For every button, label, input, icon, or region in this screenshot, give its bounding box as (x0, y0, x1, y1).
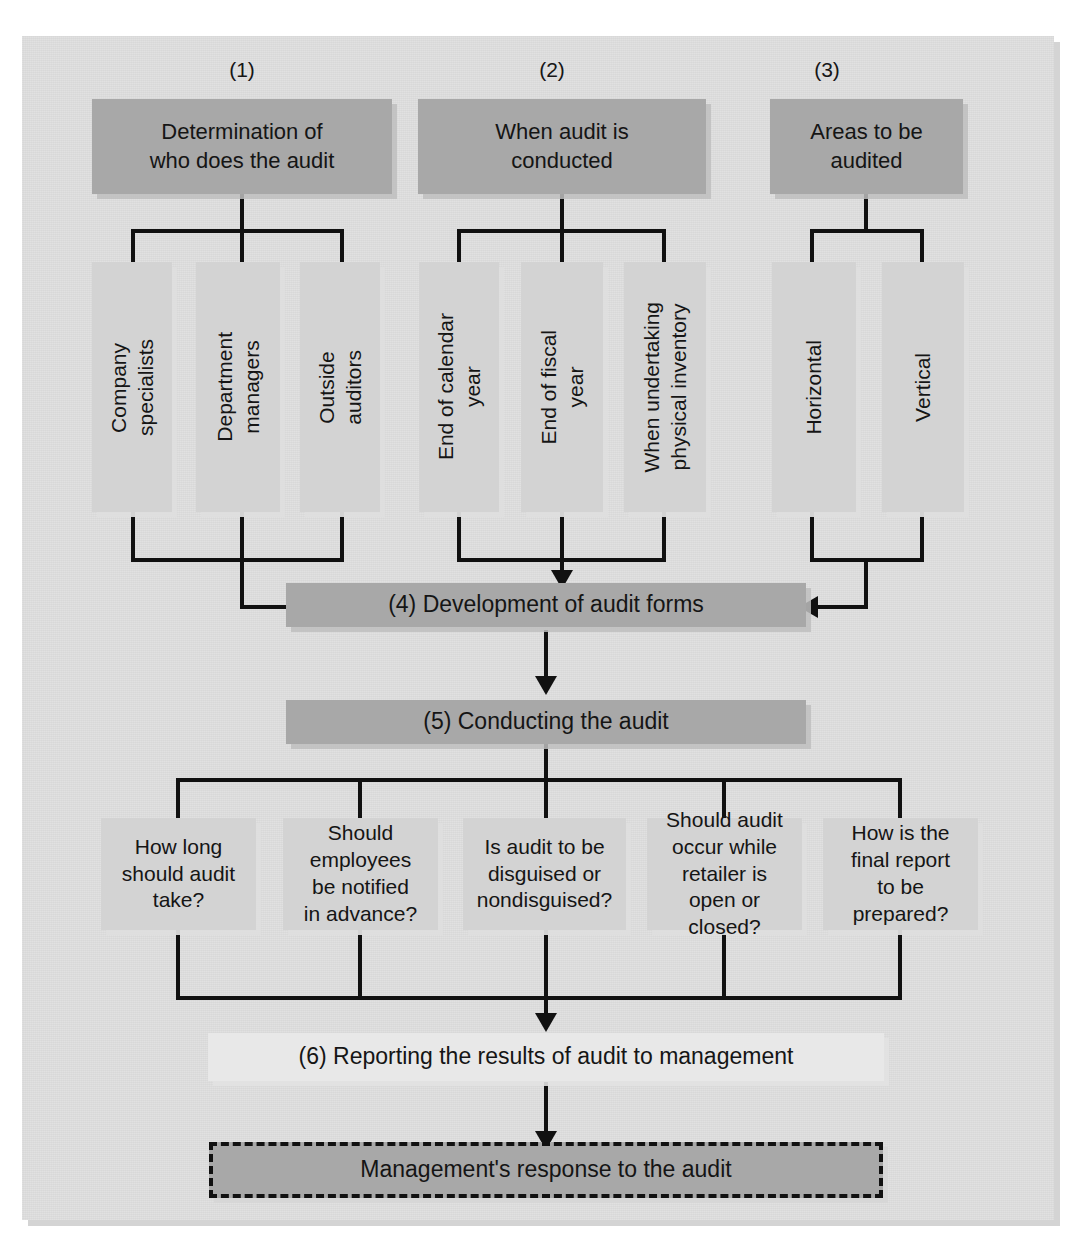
flowchart-figure: (1) (2) (3) Determination of who does th… (0, 0, 1076, 1256)
connector-col2-drop-2 (560, 229, 564, 265)
branch-box-end-of-calendar-year[interactable]: End of calendar year (419, 262, 499, 512)
merge-col1-rise-3 (340, 512, 344, 562)
connector-col2-drop-1 (457, 229, 461, 265)
question-box-final-report-prepared[interactable]: How is the final report to be prepared? (823, 818, 978, 930)
connector-step5-drop-3 (544, 778, 548, 820)
branch-box-vertical[interactable]: Vertical (882, 262, 964, 512)
arrow-into-step5 (535, 676, 557, 695)
merge-col3-rise-1 (810, 512, 814, 562)
step-7-label: Management's response to the audit (213, 1155, 879, 1184)
top-box-determination-who-does-audit[interactable]: Determination of who does the audit (92, 99, 392, 194)
step-6-reporting-results-to-management[interactable]: (6) Reporting the results of audit to ma… (208, 1033, 884, 1081)
connector-step6-to-step7 (544, 1082, 548, 1138)
column-number-1: (1) (92, 58, 392, 82)
merge-col2-down-to-step4 (560, 512, 564, 574)
branch-box-vertical-label: Vertical (909, 353, 936, 422)
branch-box-department-managers[interactable]: Department managers (196, 262, 280, 512)
connector-col1-bar (131, 229, 344, 233)
connector-step5-drop-1 (176, 778, 180, 820)
top-box-2-label: When audit is conducted (418, 118, 706, 174)
merge-col3-rise-2 (920, 512, 924, 562)
connector-col3-drop-2 (920, 229, 924, 265)
question-box-2-label: Should employees be notified in advance? (283, 820, 438, 928)
question-box-3-label: Is audit to be disguised or nondisguised… (463, 834, 626, 915)
step-7-management-response-to-audit[interactable]: Management's response to the audit (209, 1142, 883, 1198)
merge-question-down-to-step6 (544, 930, 548, 1020)
column-number-2: (2) (418, 58, 686, 82)
merge-question-rise-2 (358, 930, 362, 1000)
branch-box-company-specialists-label: Company specialists (105, 339, 160, 436)
merge-col1-rise-1 (131, 512, 135, 562)
connector-col1-stem (240, 194, 244, 232)
connector-col2-stem (560, 194, 564, 232)
connector-col3-bar (810, 229, 924, 233)
merge-question-rise-5 (898, 930, 902, 1000)
branch-box-end-of-calendar-year-label: End of calendar year (432, 313, 487, 460)
merge-question-rise-1 (176, 930, 180, 1000)
branch-box-horizontal[interactable]: Horizontal (772, 262, 856, 512)
branch-box-end-of-fiscal-year[interactable]: End of fiscal year (521, 262, 603, 512)
top-box-1-label: Determination of who does the audit (92, 118, 392, 174)
branch-box-outside-auditors-label: Outside auditors (313, 350, 368, 425)
connector-col1-drop-2 (240, 229, 244, 265)
connector-col1-drop-3 (340, 229, 344, 265)
connector-step5-bar (176, 778, 902, 782)
question-box-4-label: Should audit occur while retailer is ope… (647, 807, 802, 941)
merge-col3-down-to-step4 (864, 558, 868, 609)
top-box-areas-to-be-audited[interactable]: Areas to be audited (770, 99, 963, 194)
column-number-3: (3) (716, 58, 938, 82)
connector-step4-to-step5 (544, 630, 548, 682)
connector-col3-drop-1 (810, 229, 814, 265)
question-box-1-label: How long should audit take? (101, 834, 256, 915)
question-box-retailer-open-or-closed[interactable]: Should audit occur while retailer is ope… (647, 818, 802, 930)
connector-step5-drop-2 (358, 778, 362, 820)
step-5-label: (5) Conducting the audit (286, 707, 806, 736)
question-box-should-employees-be-notified[interactable]: Should employees be notified in advance? (283, 818, 438, 930)
top-box-when-audit-conducted[interactable]: When audit is conducted (418, 99, 706, 194)
connector-step5-drop-5 (898, 778, 902, 820)
arrow-into-step6 (535, 1013, 557, 1032)
merge-col2-rise-1 (457, 512, 461, 562)
branch-box-outside-auditors[interactable]: Outside auditors (300, 262, 380, 512)
merge-col1-bar (131, 558, 344, 562)
question-box-how-long-should-audit-take[interactable]: How long should audit take? (101, 818, 256, 930)
merge-col2-rise-3 (662, 512, 666, 562)
branch-box-end-of-fiscal-year-label: End of fiscal year (535, 330, 590, 444)
connector-col3-stem (864, 194, 868, 232)
merge-col1-down-to-step4 (240, 558, 244, 609)
branch-box-horizontal-label: Horizontal (800, 340, 827, 435)
top-box-3-label: Areas to be audited (770, 118, 963, 174)
connector-step5-stem (544, 744, 548, 778)
question-box-5-label: How is the final report to be prepared? (823, 820, 978, 928)
connector-col1-drop-1 (131, 229, 135, 265)
branch-box-when-undertaking-physical-inventory-label: When undertaking physical inventory (638, 302, 693, 472)
merge-col1-into-step4 (240, 605, 290, 609)
merge-col3-into-step4 (818, 605, 868, 609)
step-5-conducting-the-audit[interactable]: (5) Conducting the audit (286, 700, 806, 744)
branch-box-department-managers-label: Department managers (211, 332, 266, 442)
step-4-development-of-audit-forms[interactable]: (4) Development of audit forms (286, 583, 806, 627)
step-4-label: (4) Development of audit forms (286, 590, 806, 619)
merge-question-bar (176, 996, 902, 1000)
merge-col1-rise-2 (240, 512, 244, 562)
branch-box-when-undertaking-physical-inventory[interactable]: When undertaking physical inventory (624, 262, 706, 512)
question-box-disguised-or-nondisguised[interactable]: Is audit to be disguised or nondisguised… (463, 818, 626, 930)
step-6-label: (6) Reporting the results of audit to ma… (208, 1042, 884, 1071)
connector-col2-drop-3 (662, 229, 666, 265)
branch-box-company-specialists[interactable]: Company specialists (92, 262, 172, 512)
